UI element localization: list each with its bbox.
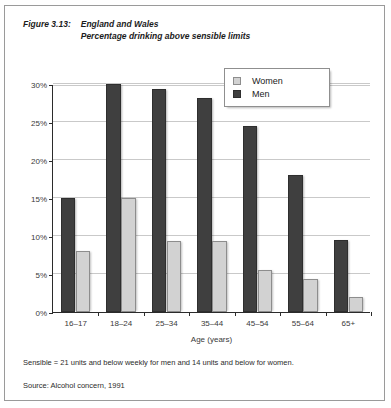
bar-women (121, 198, 136, 312)
x-tick-mark (326, 312, 327, 316)
chart-plot-area: 0%5%10%15%20%25%30% 16–1718–2425–3435–44… (52, 85, 370, 313)
footnote-source: Source: Alcohol concern, 1991 (23, 381, 125, 390)
figure-label: Figure 3.13: (23, 19, 71, 41)
x-tick-label: 55–64 (292, 319, 314, 328)
x-tick-mark (235, 312, 236, 316)
legend-label-men: Men (252, 89, 270, 99)
x-tick-label: 35–44 (201, 319, 223, 328)
x-tick-label: 25–34 (155, 319, 177, 328)
bar-men (61, 198, 76, 312)
y-tick-mark (49, 313, 53, 314)
y-tick-label: 15% (31, 195, 47, 204)
bar-men (197, 98, 212, 312)
y-tick-label: 5% (35, 271, 47, 280)
x-tick-mark (98, 312, 99, 316)
legend-label-women: Women (252, 76, 283, 86)
legend-item-men: Men (233, 87, 321, 100)
x-tick-mark (280, 312, 281, 316)
legend-item-women: Women (233, 74, 321, 87)
bar-men (243, 126, 258, 312)
bars-layer (53, 85, 370, 312)
y-tick-label: 0% (35, 309, 47, 318)
x-tick-mark (371, 312, 372, 316)
x-tick-label: 16–17 (65, 319, 87, 328)
x-tick-label: 18–24 (110, 319, 132, 328)
figure-title-line-1: England and Wales (81, 19, 251, 29)
bar-women (303, 279, 318, 312)
y-tick-label: 30% (31, 81, 47, 90)
figure-title-lines: England and Wales Percentage drinking ab… (81, 19, 251, 41)
figure-caption: Figure 3.13: England and Wales Percentag… (23, 19, 250, 41)
y-tick-label: 20% (31, 157, 47, 166)
bar-women (349, 297, 364, 312)
y-tick-label: 10% (31, 233, 47, 242)
legend-swatch-men-icon (233, 90, 241, 98)
bar-men (106, 84, 121, 312)
bar-men (334, 240, 349, 312)
x-axis-title: Age (years) (191, 335, 232, 344)
x-tick-mark (189, 312, 190, 316)
chart-legend: Women Men (224, 68, 330, 107)
bar-men (288, 175, 303, 312)
x-tick-mark (144, 312, 145, 316)
bar-women (212, 241, 227, 312)
bar-women (258, 270, 273, 312)
bar-women (167, 241, 182, 312)
bar-women (76, 251, 91, 312)
footnote-definition: Sensible = 21 units and below weekly for… (23, 358, 294, 367)
x-tick-label: 65+ (341, 319, 355, 328)
figure-title-line-2: Percentage drinking above sensible limit… (81, 31, 251, 41)
figure-frame: Figure 3.13: England and Wales Percentag… (4, 5, 385, 401)
y-tick-label: 25% (31, 119, 47, 128)
x-tick-label: 45–54 (246, 319, 268, 328)
legend-swatch-women-icon (233, 77, 241, 85)
bar-men (152, 89, 167, 312)
